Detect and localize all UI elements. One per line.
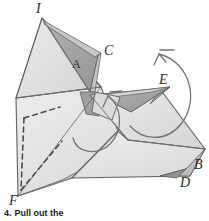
figure-page: I C A E B D F 4.Pull out the <box>0 0 209 221</box>
arrow-center-tick <box>110 91 122 92</box>
vertex-label-C: C <box>104 44 113 58</box>
figure-caption: 4.Pull out the <box>4 208 204 219</box>
vertex-label-I: I <box>36 2 41 16</box>
caption-step-number: 4. <box>4 208 12 219</box>
vertex-label-D: D <box>180 176 190 190</box>
caption-text: Pull out the <box>15 208 64 218</box>
vertex-label-E: E <box>159 73 168 87</box>
arrow-right-head-left <box>154 54 159 65</box>
vertex-label-A: A <box>72 58 81 70</box>
vertex-label-F: F <box>9 194 18 208</box>
vertex-label-B: B <box>194 158 203 172</box>
origami-diagram <box>0 0 209 221</box>
